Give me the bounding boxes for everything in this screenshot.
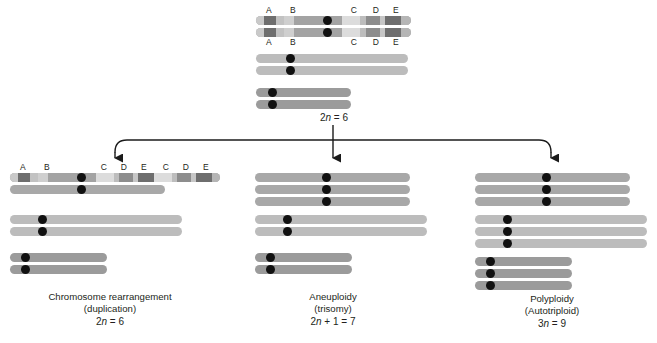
band-segment-D — [119, 173, 133, 182]
band-segment-E-duplicate — [196, 173, 212, 182]
centromere-dot — [21, 253, 30, 262]
chromosome-1-copy-2 — [475, 185, 630, 194]
ploidy-rearrangement: 2n = 6 — [0, 316, 220, 327]
caption-polyploidy: Polyploidy (Autotriploid) — [462, 293, 642, 317]
centromere-dot — [542, 185, 551, 194]
centromere-dot — [283, 227, 292, 236]
centromere-dot — [286, 66, 295, 75]
band-label-C-duplicate: C — [159, 163, 173, 172]
chromosome-1-copy-1 — [255, 173, 410, 182]
band-segment — [30, 173, 38, 182]
chromosome-2-homolog-a — [10, 215, 182, 224]
band-segment — [212, 173, 220, 182]
chromosome-2-copy-1 — [475, 215, 647, 224]
centromere-dot — [268, 100, 277, 109]
centromere-dot — [486, 281, 495, 290]
band-segment — [10, 173, 18, 182]
centromere-dot — [322, 173, 331, 182]
caption-line-2: (Autotriploid) — [462, 305, 642, 317]
centromere-dot — [283, 215, 292, 224]
ploidy-suffix: = 9 — [549, 318, 566, 329]
centromere-dot — [38, 227, 47, 236]
centromere-dot — [266, 253, 275, 262]
caption-line-1: Aneuploidy — [243, 291, 423, 303]
centromere-dot — [503, 215, 512, 224]
centromere-dot — [503, 239, 512, 248]
centromere-dot — [38, 215, 47, 224]
caption-line-2: (duplication) — [0, 303, 220, 315]
ploidy-polyploidy: 3n = 9 — [462, 318, 642, 329]
band-segment-E — [138, 173, 154, 182]
centromere-dot — [323, 16, 332, 25]
chromosome-1-copy-1 — [475, 173, 630, 182]
figure-canvas: A B C D E — [0, 0, 657, 343]
band-label-D-duplicate: D — [179, 163, 193, 172]
centromere-dot — [21, 265, 30, 274]
chromosome-1-duplicated-homolog — [10, 173, 220, 182]
centromere-dot — [77, 185, 86, 194]
chromosome-2-homolog-a — [255, 215, 427, 224]
centromere-dot — [486, 257, 495, 266]
band-label-C: C — [97, 163, 111, 172]
band-segment — [48, 173, 96, 182]
centromere-dot — [77, 173, 86, 182]
centromere-dot — [542, 197, 551, 206]
ploidy-aneuploidy: 2n + 1 = 7 — [243, 316, 423, 327]
chromosome-2-homolog-b — [255, 227, 427, 236]
band-segment-D-duplicate — [177, 173, 191, 182]
band-segment-C — [96, 173, 114, 182]
chromosome-1-copy-3 — [475, 197, 630, 206]
band-label-D: D — [117, 163, 131, 172]
chromosome-1-copy-2 — [255, 185, 410, 194]
ploidy-suffix: = 6 — [107, 316, 124, 327]
centromere-dot — [322, 185, 331, 194]
caption-aneuploidy: Aneuploidy (trisomy) — [243, 291, 423, 315]
caption-line-1: Polyploidy — [462, 293, 642, 305]
caption-line-2: (trisomy) — [243, 303, 423, 315]
centromere-dot — [322, 197, 331, 206]
centromere-dot — [486, 269, 495, 278]
ploidy-suffix: + 1 = 7 — [322, 316, 356, 327]
centromere-dot — [323, 28, 332, 37]
band-segment-B — [38, 173, 48, 182]
chromosome-1-normal-homolog — [10, 185, 165, 194]
caption-rearrangement: Chromosome rearrangement (duplication) — [0, 291, 220, 315]
centromere-dot — [286, 54, 295, 63]
chromosome-2-homolog-b — [10, 227, 182, 236]
centromere-dot — [268, 88, 277, 97]
centromere-dot — [542, 173, 551, 182]
band-label-E: E — [137, 163, 151, 172]
chromosome-2-copy-3 — [475, 239, 647, 248]
centromere-dot — [503, 227, 512, 236]
centromere-dot — [266, 265, 275, 274]
chromosome-1-copy-3 — [255, 197, 410, 206]
chromosome-2-copy-2 — [475, 227, 647, 236]
band-label-E-duplicate: E — [199, 163, 213, 172]
band-segment-C-duplicate — [154, 173, 172, 182]
caption-line-1: Chromosome rearrangement — [0, 291, 220, 303]
band-segment-A — [18, 173, 30, 182]
band-label-B: B — [40, 163, 54, 172]
band-label-A: A — [16, 163, 30, 172]
